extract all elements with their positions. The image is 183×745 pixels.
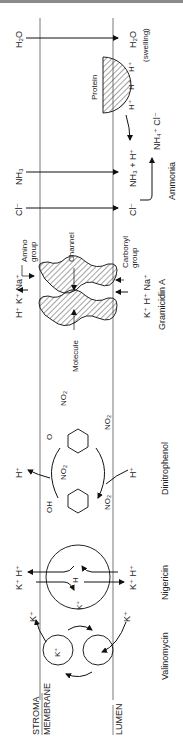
- svg-text:NH₄⁺ Cl⁻: NH₄⁺ Cl⁻: [152, 112, 162, 150]
- svg-text:Cl⁻: Cl⁻: [128, 203, 138, 217]
- svg-text:Amino: Amino: [20, 239, 29, 262]
- svg-text:Valinomycin: Valinomycin: [160, 632, 170, 680]
- svg-text:H: H: [71, 577, 80, 583]
- svg-text:K⁺: K⁺: [53, 648, 62, 657]
- svg-text:Dinitrophenol: Dinitrophenol: [160, 442, 170, 495]
- svg-text:NH₃: NH₃: [14, 168, 24, 185]
- valinomycin-section: K⁺ K⁺ K⁺ Valinomycin: [28, 611, 170, 680]
- stroma-label: STROMA MEMBRANE: [31, 683, 52, 735]
- svg-text:K⁺ H⁺ Na⁺: K⁺ H⁺ Na⁺: [142, 274, 152, 318]
- svg-text:OH: OH: [45, 501, 54, 513]
- svg-text:(swelling): (swelling): [141, 28, 150, 62]
- diagram-frame: STROMA MEMBRANE LUMEN H₂O H₂O (swelling)…: [0, 0, 183, 745]
- svg-text:Ammonia: Ammonia: [167, 162, 177, 200]
- svg-text:K⁺ H⁺: K⁺ H⁺: [14, 565, 24, 590]
- svg-text:Cl⁻: Cl⁻: [14, 203, 24, 217]
- svg-text:Molecule: Molecule: [71, 339, 80, 372]
- svg-text:STROMA: STROMA: [31, 696, 41, 735]
- svg-text:Channel: Channel: [67, 232, 76, 262]
- svg-text:H⁺ K⁺ Na⁺: H⁺ K⁺ Na⁺: [14, 274, 24, 318]
- svg-text:Carbonyl: Carbonyl: [121, 236, 130, 268]
- svg-text:H⁺: H⁺: [127, 62, 136, 72]
- svg-text:NO₂: NO₂: [103, 495, 112, 510]
- svg-text:K⁺ H⁺: K⁺ H⁺: [128, 565, 138, 590]
- svg-text:K⁺: K⁺: [122, 611, 132, 622]
- gramicidin-section: H⁺ K⁺ Na⁺ Amino group Channel Carbonyl g…: [14, 232, 167, 372]
- nigericin-section: H K⁺ K⁺ H⁺ K⁺ H⁺ Nigericin: [14, 545, 170, 610]
- lumen-label: LUMEN: [113, 703, 124, 735]
- svg-text:NO₂: NO₂: [103, 415, 112, 430]
- svg-text:group: group: [29, 241, 38, 262]
- ammonia-section: Protein H⁺ H⁺ H⁺ NH₃ NH₃ + H⁺ NH₄⁺ Cl⁻ A…: [14, 57, 177, 216]
- ionophore-diagram: STROMA MEMBRANE LUMEN H₂O H₂O (swelling)…: [0, 0, 183, 745]
- water-section: H₂O H₂O (swelling): [14, 28, 150, 62]
- svg-text:Nigericin: Nigericin: [160, 565, 170, 600]
- svg-text:O: O: [45, 434, 54, 440]
- svg-text:NO₂: NO₂: [59, 391, 68, 406]
- svg-text:K⁺: K⁺: [28, 611, 38, 622]
- svg-text:Protein: Protein: [90, 75, 99, 100]
- svg-text:H⁺: H⁺: [127, 80, 136, 90]
- svg-text:H⁺: H⁺: [128, 467, 138, 479]
- svg-text:H₂O: H₂O: [14, 31, 24, 48]
- gramicidin-lower: [39, 290, 117, 326]
- svg-text:group: group: [130, 247, 139, 268]
- svg-text:NO₂: NO₂: [59, 465, 68, 480]
- svg-text:LUMEN: LUMEN: [114, 703, 124, 735]
- svg-text:MEMBRANE: MEMBRANE: [42, 683, 52, 735]
- svg-text:NH₃ + H⁺: NH₃ + H⁺: [128, 149, 138, 187]
- svg-text:H₂O: H₂O: [128, 31, 138, 48]
- dinitrophenol-section: O NO₂ NO₂ OH NO₂ NO₂ H⁺ H⁺ Dinitrophenol: [14, 391, 170, 513]
- svg-text:H⁺: H⁺: [127, 100, 136, 110]
- gramicidin-upper: [39, 256, 117, 293]
- svg-text:Gramicidin A: Gramicidin A: [157, 279, 167, 330]
- svg-text:H⁺: H⁺: [14, 467, 24, 479]
- svg-text:K⁺: K⁺: [75, 601, 84, 610]
